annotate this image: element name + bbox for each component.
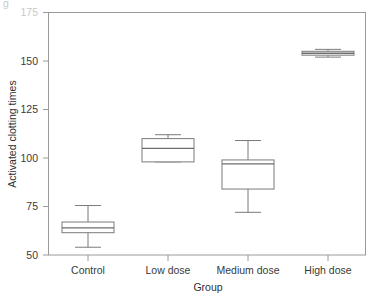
y-tick-label-50: 50 — [26, 249, 38, 261]
y-tick-label-75: 75 — [26, 200, 38, 212]
x-axis-title: Group — [193, 281, 222, 293]
chart-svg: g 175 150 125 100 75 50 Activated clotti… — [0, 0, 372, 296]
box-iqr — [142, 139, 194, 162]
y-axis-title: Activated clotting times — [6, 80, 18, 187]
y-tick-label-125: 125 — [20, 103, 38, 115]
x-label-low-dose: Low dose — [146, 264, 191, 276]
x-label-high-dose: High dose — [304, 264, 351, 276]
boxplot-low-dose[interactable] — [142, 135, 194, 162]
x-label-medium-dose: Medium dose — [216, 264, 279, 276]
y-tick-label-175: 175 — [20, 6, 38, 18]
x-label-control: Control — [71, 264, 105, 276]
boxplot-chart: g 175 150 125 100 75 50 Activated clotti… — [0, 0, 372, 296]
y-tick-label-150: 150 — [20, 55, 38, 67]
clipped-top-glyph: g — [3, 0, 9, 9]
y-tick-label-100: 100 — [20, 152, 38, 164]
